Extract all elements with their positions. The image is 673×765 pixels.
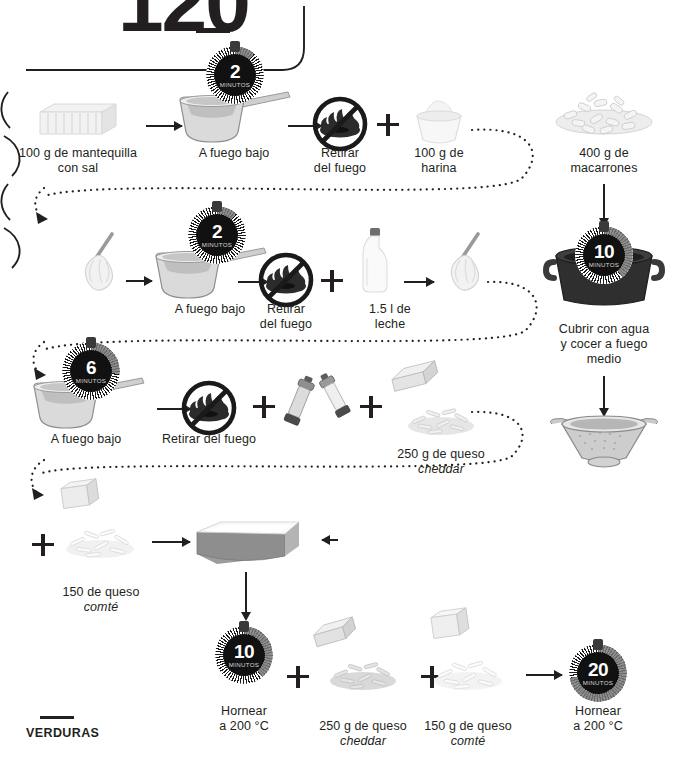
caption-comte-dish: 150 de queso comté xyxy=(36,570,166,630)
timer-face: 20 MINUTOS xyxy=(577,652,619,694)
timer-face: 10 MINUTOS xyxy=(583,234,625,276)
comte-variety: comté xyxy=(36,600,166,615)
caption-macaroni: 400 g de macarrones xyxy=(538,146,670,176)
connector-row3-row4 xyxy=(470,398,560,508)
timer-value: 2 xyxy=(230,63,240,80)
comte-amount: 150 de queso xyxy=(63,585,140,599)
cheese-block-icon xyxy=(386,362,444,392)
timer-unit: MINUTOS xyxy=(229,661,260,668)
cheese-block-icon xyxy=(58,478,104,512)
grated-cheese-pile-icon xyxy=(430,656,506,692)
timer-unit: MINUTOS xyxy=(220,81,251,88)
connector-comte-top-pour xyxy=(0,226,44,274)
arrow-icon xyxy=(404,281,434,283)
flour-bowl-icon xyxy=(408,96,470,148)
timer-face: 2 MINUTOS xyxy=(214,54,256,96)
recipe-flowchart: 120 100 g de mantequilla con sal xyxy=(0,0,673,765)
timer-bechamel: 6 MINUTOS xyxy=(62,342,120,400)
timer-pasta-boil: 10 MINUTOS xyxy=(575,226,633,284)
plus-icon xyxy=(32,534,54,556)
arrow-icon xyxy=(322,539,338,541)
milk-bottle-icon xyxy=(358,228,392,294)
whisk-icon xyxy=(74,232,122,294)
cheddar-top-amount: 250 g de queso xyxy=(319,719,407,733)
title-rule xyxy=(196,28,230,33)
timer-face: 10 MINUTOS xyxy=(223,634,265,676)
arrow-icon xyxy=(603,184,605,218)
cheese-block-icon xyxy=(428,606,474,642)
timer-unit: MINUTOS xyxy=(589,261,620,268)
macaroni-pile-icon xyxy=(552,92,656,136)
no-flame-icon xyxy=(181,380,237,436)
timer-knob xyxy=(599,221,609,232)
caption-milk: 1.5 l de leche xyxy=(334,302,446,332)
plus-icon xyxy=(253,396,275,418)
connector-arrowhead xyxy=(34,210,52,228)
plus-icon xyxy=(377,114,399,136)
connector-row2-row3 xyxy=(486,266,576,386)
caption-off-heat-1: Retirar del fuego xyxy=(296,146,384,176)
timer-face: 6 MINUTOS xyxy=(70,350,112,392)
arrow-icon xyxy=(526,674,562,676)
comte-top-variety: comté xyxy=(400,734,536,749)
caption-low-heat-1: A fuego bajo xyxy=(166,146,302,161)
arrow-icon xyxy=(152,541,190,543)
caption-low-heat-3: A fuego bajo xyxy=(18,432,154,447)
arrow-icon xyxy=(126,280,152,282)
butter-block-icon xyxy=(34,100,122,140)
timer-knob xyxy=(593,639,603,650)
timer-roux: 2 MINUTOS xyxy=(188,206,246,264)
plus-icon xyxy=(321,270,343,292)
timer-bake-second: 20 MINUTOS xyxy=(569,644,627,702)
arrow-icon xyxy=(245,572,247,612)
footer-rule xyxy=(40,716,74,719)
timer-knob xyxy=(86,337,96,348)
caption-bake-first: Hornear a 200 °C xyxy=(190,704,298,734)
timer-butter-melt: 2 MINUTOS xyxy=(206,46,264,104)
plus-icon xyxy=(287,666,309,688)
grated-cheese-pile-icon xyxy=(404,402,478,436)
caption-butter: 100 g de mantequilla con sal xyxy=(8,146,148,176)
salt-grinder-icon xyxy=(318,368,358,426)
baking-dish-icon xyxy=(193,518,303,570)
no-flame-icon xyxy=(258,252,314,308)
timer-unit: MINUTOS xyxy=(202,241,233,248)
colander-icon xyxy=(550,412,658,474)
timer-knob xyxy=(239,621,249,632)
timer-unit: MINUTOS xyxy=(76,377,107,384)
arrow-icon xyxy=(603,376,605,408)
connector-arrowhead xyxy=(30,486,48,504)
plus-icon xyxy=(360,396,382,418)
timer-value: 2 xyxy=(212,223,222,240)
no-flame-icon xyxy=(312,96,368,152)
timer-value: 10 xyxy=(594,243,614,260)
caption-bake-second: Hornear a 200 °C xyxy=(544,704,652,734)
grated-cheese-pile-icon xyxy=(62,524,138,560)
timer-face: 2 MINUTOS xyxy=(196,214,238,256)
pepper-grinder-icon xyxy=(282,372,322,434)
whisk-icon xyxy=(440,232,488,294)
timer-knob xyxy=(212,201,222,212)
timer-unit: MINUTOS xyxy=(583,679,614,686)
caption-off-heat-3: Retirar del fuego xyxy=(153,432,265,447)
caption-comte-top: 150 g de queso comté xyxy=(400,704,536,764)
timer-bake-first: 10 MINUTOS xyxy=(215,626,273,684)
caption-off-heat-2: Retirar del fuego xyxy=(244,302,328,332)
timer-value: 20 xyxy=(588,661,608,678)
footer-category: VERDURAS xyxy=(26,726,99,740)
grated-cheese-pile-icon xyxy=(326,656,400,692)
cheese-block-icon xyxy=(310,618,362,648)
comte-top-amount: 150 g de queso xyxy=(424,719,512,733)
timer-value: 10 xyxy=(234,643,254,660)
timer-knob xyxy=(230,41,240,52)
timer-value: 6 xyxy=(86,359,96,376)
